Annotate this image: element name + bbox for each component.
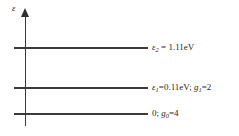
level-line-1: [14, 87, 148, 89]
level-0-degeneracy-value: 4: [174, 108, 179, 118]
level-1-degeneracy-value: 2: [207, 82, 212, 92]
level-label-0: 0; g0=4: [152, 109, 179, 118]
level-0-degeneracy-subscript: 0: [166, 112, 169, 119]
axis-label-epsilon: ε: [12, 4, 16, 13]
energy-level-diagram: ε ε2 = 1.11eV ε1=0.11eV; g1=2 0; g0=4: [0, 0, 239, 136]
level-2-energy-value: 1.11eV: [168, 42, 194, 52]
level-line-0: [14, 113, 148, 115]
level-label-2: ε2 = 1.11eV: [152, 43, 194, 52]
level-label-1: ε1=0.11eV; g1=2: [152, 83, 211, 92]
level-line-2: [14, 47, 148, 49]
level-1-degeneracy-subscript: 1: [198, 86, 201, 93]
level-1-energy-subscript: 1: [156, 86, 159, 93]
level-2-energy-symbol: ε: [152, 42, 156, 52]
level-2-energy-subscript: 2: [156, 46, 159, 53]
level-2-separator: =: [159, 42, 169, 52]
energy-axis: [25, 15, 26, 126]
level-1-energy-value: 0.11eV: [164, 82, 189, 92]
level-1-energy-symbol: ε: [152, 82, 156, 92]
